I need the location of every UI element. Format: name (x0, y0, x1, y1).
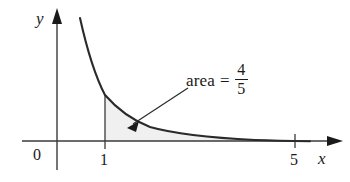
origin-label: 0 (33, 147, 41, 163)
y-axis-arrowhead (52, 8, 62, 24)
x-axis-arrowhead (327, 136, 343, 146)
annotation-leader-line (133, 88, 188, 124)
x-axis-label: x (318, 150, 326, 167)
area-annotation-text: area (186, 72, 215, 89)
area-annotation: area = 4 5 (186, 63, 248, 97)
equals-sign: = (220, 72, 230, 89)
fraction-denominator: 5 (235, 81, 247, 97)
fraction-numerator: 4 (235, 62, 247, 78)
x-tick-label-1: 1 (100, 152, 108, 168)
math-figure: y x 0 1 5 area = 4 5 (0, 0, 350, 182)
y-axis-label: y (36, 10, 44, 27)
x-tick-label-5: 5 (290, 152, 298, 168)
area-value-fraction: 4 5 (235, 62, 248, 97)
